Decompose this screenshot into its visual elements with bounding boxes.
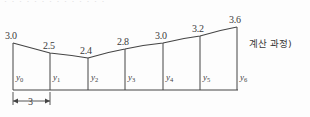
- dim-arrowhead-left: [13, 98, 18, 103]
- value-label-y2: 2.4: [80, 45, 92, 56]
- figure-root: · · · · · · · · · · · · · · 3.02.52.42.8…: [0, 0, 310, 117]
- trapezoid-diagram: [0, 0, 310, 117]
- ordinate-label-y3: y3: [128, 72, 135, 82]
- value-label-y3: 2.8: [117, 36, 129, 47]
- ordinate-label-y1: y1: [53, 72, 60, 82]
- ordinate-label-y6: y6: [240, 72, 247, 82]
- ordinate-label-y2: y2: [91, 72, 98, 82]
- value-label-y4: 3.0: [155, 30, 167, 41]
- strip-width-label: 3: [28, 96, 33, 107]
- value-label-y1: 2.5: [43, 40, 55, 51]
- value-label-y5: 3.2: [192, 23, 204, 34]
- ordinate-label-y5: y5: [203, 72, 210, 82]
- ordinate-label-y4: y4: [166, 72, 173, 82]
- ordinate-label-y0: y0: [16, 72, 23, 82]
- side-note-text: 계산 과정): [249, 36, 292, 50]
- dim-arrowhead-right: [45, 98, 50, 103]
- value-label-y0: 3.0: [5, 30, 17, 41]
- value-label-y6: 3.6: [229, 14, 241, 25]
